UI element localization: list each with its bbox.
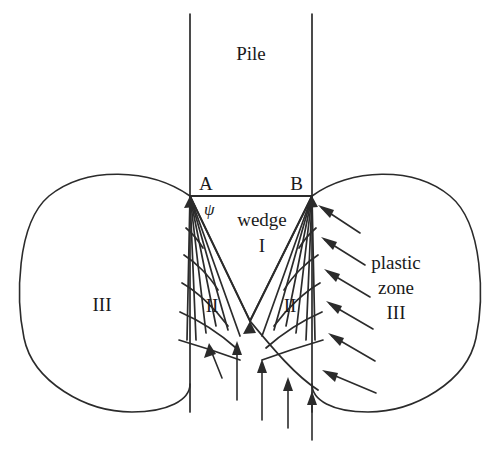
point-a-label: A (199, 173, 213, 194)
diagram-canvas: Pile A B ψ wedge I II II III plastic zon… (0, 0, 499, 462)
plastic-zone-label-line3: III (387, 302, 406, 323)
zone-two-right-label: II (284, 295, 297, 316)
zone-three-left-label: III (93, 294, 112, 315)
lower-boundary-curve-right (250, 321, 318, 390)
zone-two-left-label: II (206, 295, 219, 316)
wedge-numeral-label: I (259, 235, 265, 256)
right-load-arrows (322, 208, 376, 393)
wedge-label: wedge (237, 209, 287, 230)
psi-angle-label: ψ (204, 200, 215, 219)
bottom-load-arrows (210, 346, 312, 440)
point-b-label: B (290, 173, 303, 194)
pile-label: Pile (236, 43, 266, 64)
plastic-zone-label-line1: plastic (371, 252, 421, 273)
plastic-zone-label-line2: zone (378, 277, 414, 298)
pile-failure-mechanism-diagram: Pile A B ψ wedge I II II III plastic zon… (0, 0, 499, 462)
